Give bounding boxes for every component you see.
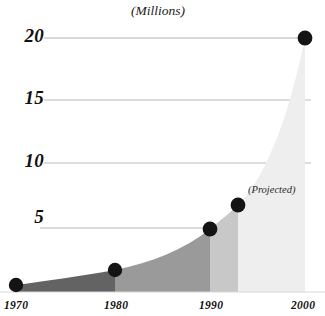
x-axis-tick-1990: 1990 (199, 300, 223, 312)
data-point-1990[interactable] (203, 222, 218, 237)
data-point-1970[interactable] (9, 278, 23, 292)
x-axis-tick-1970: 1970 (4, 300, 28, 312)
y-axis-tick-5: 5 (10, 207, 44, 226)
area-bands (16, 38, 305, 292)
chart-container: (Millions) (Projected) 20 15 10 5 1970 1… (0, 0, 325, 316)
area-band-projected (16, 38, 305, 292)
y-axis-tick-10: 10 (10, 151, 44, 170)
y-axis-tick-15: 15 (10, 88, 44, 107)
projected-annotation: (Projected) (248, 185, 295, 196)
y-axis-tick-20: 20 (10, 26, 44, 45)
data-point-2000[interactable] (298, 31, 313, 46)
x-axis-tick-2000: 2000 (291, 300, 315, 312)
data-point-1993[interactable] (231, 198, 246, 213)
chart-title: (Millions) (131, 4, 185, 18)
x-axis-tick-1980: 1980 (104, 300, 128, 312)
data-point-1980[interactable] (108, 263, 122, 277)
area-chart-plot (0, 0, 325, 316)
